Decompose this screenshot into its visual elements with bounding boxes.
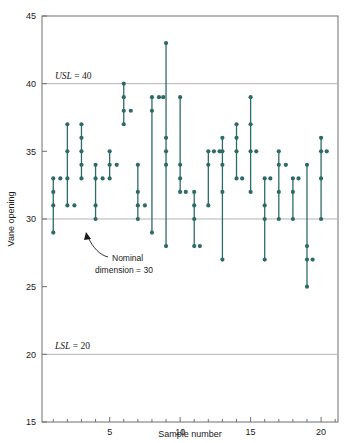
data-point <box>305 163 309 167</box>
data-point <box>93 203 97 207</box>
data-point <box>249 122 253 126</box>
data-point <box>150 230 154 234</box>
data-point <box>234 176 238 180</box>
data-point <box>184 190 188 194</box>
data-point <box>122 82 126 86</box>
data-point <box>58 176 62 180</box>
data-point <box>220 136 224 140</box>
data-point <box>277 217 281 221</box>
data-point <box>234 136 238 140</box>
data-point <box>249 149 253 153</box>
data-point <box>164 41 168 45</box>
data-point <box>206 163 210 167</box>
data-point <box>178 95 182 99</box>
data-point <box>79 163 83 167</box>
data-point <box>284 163 288 167</box>
data-point <box>51 190 55 194</box>
data-point <box>263 203 267 207</box>
data-point <box>164 163 168 167</box>
data-point <box>143 203 147 207</box>
data-point <box>136 163 140 167</box>
data-point <box>164 244 168 248</box>
data-point <box>122 95 126 99</box>
y-tick-label-45: 45 <box>26 11 36 21</box>
data-point <box>319 136 323 140</box>
data-point <box>192 217 196 221</box>
data-point <box>51 203 55 207</box>
data-point <box>277 163 281 167</box>
data-point <box>150 109 154 113</box>
data-point <box>65 149 69 153</box>
data-point <box>291 217 295 221</box>
data-point <box>178 176 182 180</box>
x-tick-label-20: 20 <box>316 427 326 437</box>
data-point <box>220 163 224 167</box>
data-point <box>93 163 97 167</box>
data-point <box>93 176 97 180</box>
data-point <box>101 176 105 180</box>
annotation-line-2: dimension = 30 <box>95 265 153 275</box>
data-point <box>136 190 140 194</box>
data-point <box>305 244 309 248</box>
data-point <box>206 149 210 153</box>
data-point <box>263 258 267 262</box>
y-tick-label-25: 25 <box>26 282 36 292</box>
data-point <box>319 149 323 153</box>
data-point <box>249 190 253 194</box>
data-point <box>220 190 224 194</box>
x-axis-title: Sample number <box>158 429 222 439</box>
data-point <box>164 149 168 153</box>
data-point <box>291 176 295 180</box>
y-tick-label-40: 40 <box>26 79 36 89</box>
spec-label-LSL: LSL = 20 <box>54 341 90 351</box>
data-point <box>325 149 329 153</box>
y-axis-title: Vane opening <box>6 192 16 247</box>
data-point <box>240 176 244 180</box>
data-point <box>129 109 133 113</box>
data-point <box>296 176 300 180</box>
data-point <box>212 149 216 153</box>
data-point <box>319 176 323 180</box>
data-point <box>311 258 315 262</box>
data-point <box>161 95 165 99</box>
data-point <box>65 122 69 126</box>
data-point <box>108 163 112 167</box>
data-point <box>72 203 76 207</box>
data-point <box>136 203 140 207</box>
x-tick-label-5: 5 <box>107 427 112 437</box>
data-point <box>108 149 112 153</box>
data-point <box>108 176 112 180</box>
y-tick-label-20: 20 <box>26 350 36 360</box>
x-tick-label-15: 15 <box>246 427 256 437</box>
data-point <box>249 95 253 99</box>
data-point <box>220 149 224 153</box>
data-point <box>277 190 281 194</box>
data-point <box>263 217 267 221</box>
data-point <box>164 136 168 140</box>
data-point <box>65 176 69 180</box>
data-point <box>192 190 196 194</box>
data-point <box>277 149 281 153</box>
data-point <box>178 190 182 194</box>
y-tick-label-35: 35 <box>26 147 36 157</box>
data-point <box>220 258 224 262</box>
data-point <box>51 176 55 180</box>
data-point <box>157 95 161 99</box>
data-point <box>305 258 309 262</box>
data-point <box>93 217 97 221</box>
y-tick-label-30: 30 <box>26 214 36 224</box>
data-point <box>254 149 258 153</box>
data-point <box>79 122 83 126</box>
y-tick-label-15: 15 <box>26 417 36 427</box>
data-point <box>268 176 272 180</box>
data-point <box>234 122 238 126</box>
data-point <box>319 217 323 221</box>
data-point <box>79 136 83 140</box>
data-point <box>122 109 126 113</box>
data-point <box>206 203 210 207</box>
data-point <box>291 190 295 194</box>
data-point <box>192 203 196 207</box>
data-point <box>192 244 196 248</box>
data-point <box>136 217 140 221</box>
vane-opening-scatter-chart: 15202530354045 5101520 USL = 40LSL = 20 … <box>0 0 354 443</box>
